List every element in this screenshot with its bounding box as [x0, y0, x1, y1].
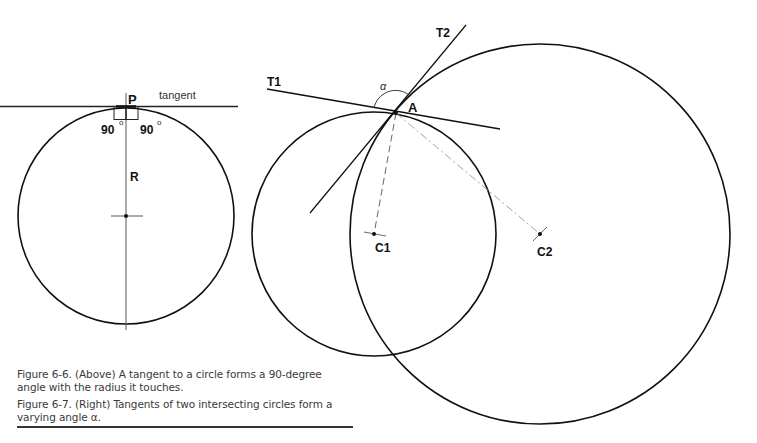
label-t2: T2 [436, 26, 450, 40]
degree-right: o [157, 118, 162, 127]
degree-left: o [119, 118, 124, 127]
c1-point [372, 232, 376, 236]
label-r: R [130, 170, 139, 184]
point-a [394, 111, 398, 115]
figure-6-6: P tangent 90 o 90 o R [0, 89, 238, 330]
center-point [124, 214, 128, 218]
radius-a-c2 [396, 113, 540, 234]
c2-point [538, 232, 542, 236]
figure-6-7: T1 T2 A α C1 C2 [252, 25, 730, 424]
label-t1: T1 [267, 75, 281, 89]
tangent-t1 [267, 89, 500, 129]
label-alpha: α [380, 80, 387, 92]
label-c2: C2 [537, 245, 553, 259]
caption-figure-6-6: Figure 6-6. (Above) A tangent to a circl… [17, 368, 353, 394]
label-c1: C1 [375, 241, 391, 255]
label-a: A [408, 100, 418, 115]
label-90-left: 90 [101, 123, 115, 137]
caption-figure-6-7: Figure 6-7. (Right) Tangents of two inte… [17, 398, 353, 424]
label-p: P [128, 92, 137, 107]
label-tangent: tangent [159, 89, 196, 101]
label-90-right: 90 [140, 123, 154, 137]
caption-rule [17, 426, 353, 428]
